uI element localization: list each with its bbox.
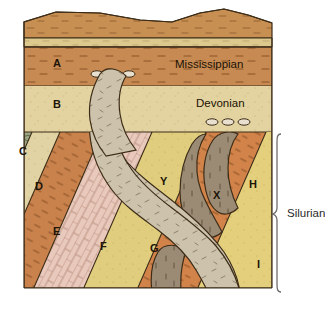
unit-label-g: G <box>150 242 159 254</box>
geologic-block-diagram-svg: Mississippian Devonian Silurian A B C D … <box>0 0 325 312</box>
block-diagram-figure: Mississippian Devonian Silurian A B C D … <box>0 0 325 312</box>
unit-label-d: D <box>35 180 43 192</box>
period-label-mississippian: Mississippian <box>175 58 243 70</box>
unit-label-a: A <box>53 57 61 69</box>
devonian-pebble-marks <box>206 119 250 125</box>
surface-band-layer <box>24 38 272 47</box>
period-label-devonian: Devonian <box>196 97 245 109</box>
topographic-surface <box>24 9 272 38</box>
unit-label-i: I <box>257 258 260 270</box>
unit-label-e: E <box>53 225 60 237</box>
unit-label-x: X <box>213 189 221 201</box>
unit-label-c: C <box>19 145 27 157</box>
period-label-silurian: Silurian <box>287 207 325 219</box>
unit-label-f: F <box>100 240 107 252</box>
unit-label-h: H <box>249 178 257 190</box>
unit-label-b: B <box>53 98 61 110</box>
silurian-bracket <box>272 134 281 292</box>
layer-b-devonian <box>24 86 272 132</box>
unit-label-y: Y <box>160 175 168 187</box>
